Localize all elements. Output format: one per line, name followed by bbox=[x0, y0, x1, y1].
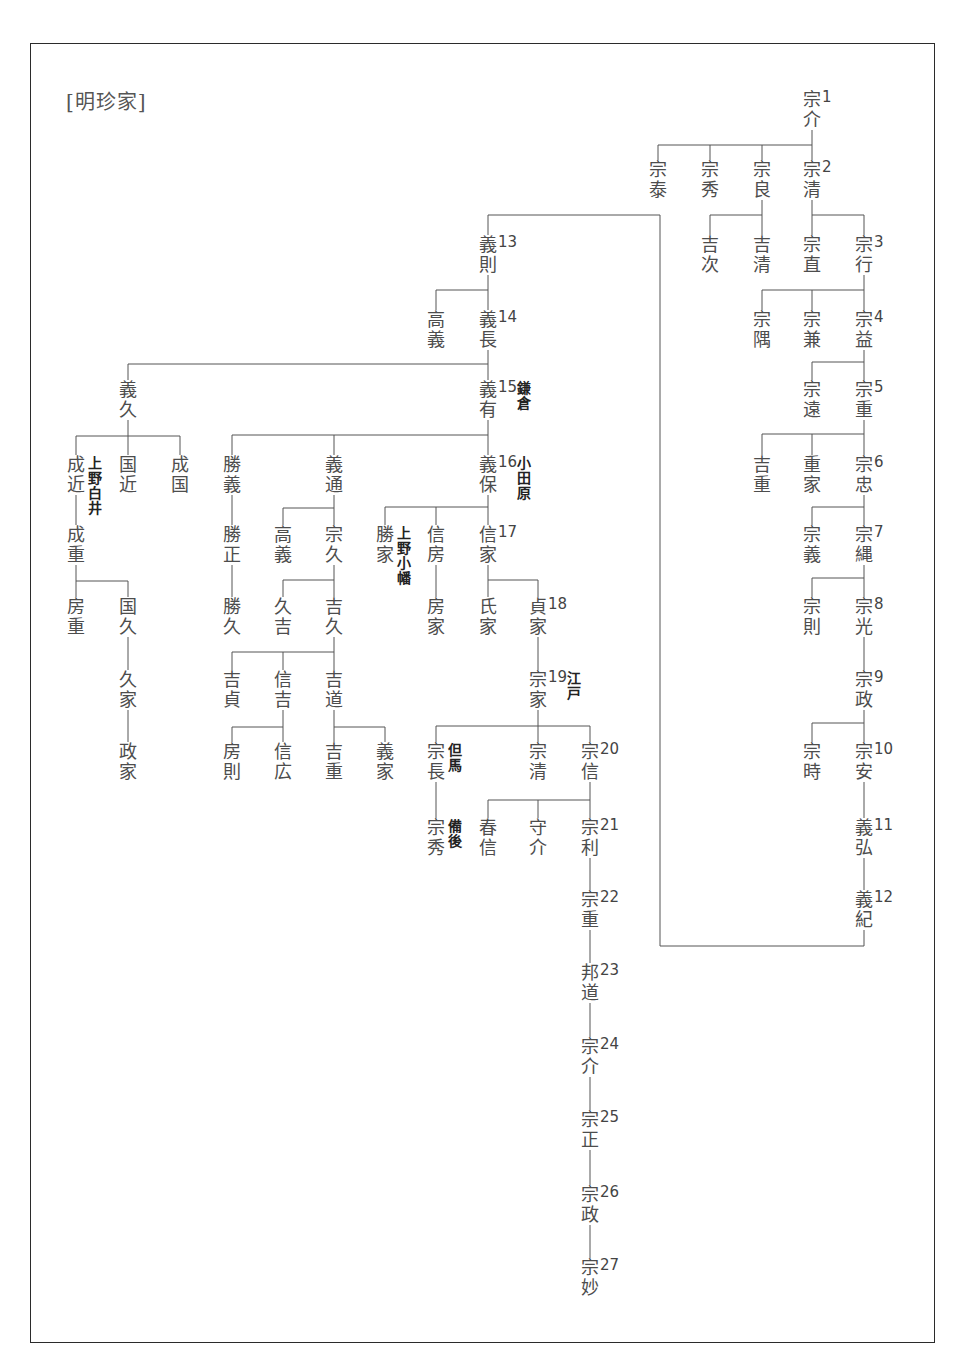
person-node: 吉清 bbox=[752, 235, 772, 275]
person-node: 宗良 bbox=[752, 160, 772, 200]
person-name-char: 信 bbox=[478, 838, 498, 858]
person-node: 吉久 bbox=[324, 597, 344, 637]
person-name-char: 房 bbox=[426, 597, 446, 617]
person-name-char: 兼 bbox=[802, 330, 822, 350]
person-name-char: 勝 bbox=[222, 525, 242, 545]
person-name-char: 則 bbox=[222, 762, 242, 782]
person-name-char: 義 bbox=[426, 330, 446, 350]
person-name-char: 吉 bbox=[324, 742, 344, 762]
person-node: 宗秀 bbox=[426, 818, 446, 858]
person-name-char: 宗 bbox=[700, 160, 720, 180]
person-node: 吉貞 bbox=[222, 670, 242, 710]
person-node: 春信 bbox=[478, 818, 498, 858]
person-name-char: 家 bbox=[478, 617, 498, 637]
person-name-char: 国 bbox=[118, 597, 138, 617]
person-name-char: 房 bbox=[66, 597, 86, 617]
person-name-char: 清 bbox=[528, 762, 548, 782]
person-name-char: 久 bbox=[324, 617, 344, 637]
person-name-char: 保 bbox=[478, 475, 498, 495]
person-name-char: 弘 bbox=[854, 838, 874, 858]
person-node: 宗政 bbox=[854, 670, 874, 710]
person-name-char: 介 bbox=[528, 838, 548, 858]
person-name-char: 宗 bbox=[802, 90, 822, 110]
person-name-char: 重 bbox=[802, 455, 822, 475]
place-note: 鎌倉 bbox=[516, 381, 532, 411]
person-name-char: 信 bbox=[478, 525, 498, 545]
person-name-char: 宗 bbox=[580, 742, 600, 762]
person-name-char: 信 bbox=[426, 525, 446, 545]
person-node: 宗清 bbox=[802, 160, 822, 200]
person-name-char: 宗 bbox=[802, 310, 822, 330]
person-node: 宗兼 bbox=[802, 310, 822, 350]
person-name-char: 介 bbox=[580, 1057, 600, 1077]
generation-number: 11 bbox=[874, 817, 893, 833]
person-name-char: 家 bbox=[375, 762, 395, 782]
person-name-char: 吉 bbox=[324, 670, 344, 690]
generation-number: 14 bbox=[498, 309, 517, 325]
person-name-char: 国 bbox=[170, 475, 190, 495]
person-node: 義長 bbox=[478, 310, 498, 350]
person-node: 宗遠 bbox=[802, 380, 822, 420]
person-name-char: 清 bbox=[802, 180, 822, 200]
person-name-char: 正 bbox=[222, 545, 242, 565]
place-note: 小田原 bbox=[516, 456, 532, 501]
person-name-char: 重 bbox=[324, 762, 344, 782]
person-name-char: 宗 bbox=[854, 525, 874, 545]
person-node: 房重 bbox=[66, 597, 86, 637]
person-node: 勝久 bbox=[222, 597, 242, 637]
person-name-char: 義 bbox=[478, 455, 498, 475]
place-note: 江戸 bbox=[566, 671, 582, 701]
person-name-char: 久 bbox=[273, 597, 293, 617]
person-node: 義久 bbox=[118, 380, 138, 420]
connector-lines bbox=[0, 0, 958, 1370]
person-node: 邦道 bbox=[580, 963, 600, 1003]
person-name-char: 隅 bbox=[752, 330, 772, 350]
person-node: 宗家 bbox=[528, 670, 548, 710]
person-name-char: 高 bbox=[273, 525, 293, 545]
person-node: 宗正 bbox=[580, 1110, 600, 1150]
generation-number: 7 bbox=[874, 524, 884, 540]
person-node: 宗妙 bbox=[580, 1258, 600, 1298]
person-name-char: 房 bbox=[222, 742, 242, 762]
person-node: 宗忠 bbox=[854, 455, 874, 495]
person-node: 勝正 bbox=[222, 525, 242, 565]
person-node: 宗重 bbox=[854, 380, 874, 420]
person-name-char: 吉 bbox=[324, 597, 344, 617]
person-node: 宗信 bbox=[580, 742, 600, 782]
person-name-char: 泰 bbox=[648, 180, 668, 200]
person-name-char: 勝 bbox=[222, 597, 242, 617]
person-name-char: 成 bbox=[170, 455, 190, 475]
person-node: 高義 bbox=[426, 310, 446, 350]
person-name-char: 正 bbox=[580, 1130, 600, 1150]
person-name-char: 春 bbox=[478, 818, 498, 838]
person-node: 房家 bbox=[426, 597, 446, 637]
person-name-char: 義 bbox=[222, 475, 242, 495]
person-name-char: 義 bbox=[118, 380, 138, 400]
person-name-char: 重 bbox=[854, 400, 874, 420]
person-name-char: 則 bbox=[802, 617, 822, 637]
person-name-char: 吉 bbox=[273, 617, 293, 637]
person-node: 成重 bbox=[66, 525, 86, 565]
generation-number: 2 bbox=[822, 159, 832, 175]
person-name-char: 紀 bbox=[854, 910, 874, 930]
person-node: 国久 bbox=[118, 597, 138, 637]
person-name-char: 義 bbox=[802, 545, 822, 565]
person-node: 勝家 bbox=[375, 525, 395, 565]
place-note: 上野白井 bbox=[87, 456, 103, 516]
person-name-char: 宗 bbox=[752, 160, 772, 180]
person-name-char: 妙 bbox=[580, 1278, 600, 1298]
person-node: 貞家 bbox=[528, 597, 548, 637]
person-name-char: 道 bbox=[324, 690, 344, 710]
person-name-char: 秀 bbox=[700, 180, 720, 200]
person-name-char: 宗 bbox=[528, 742, 548, 762]
person-name-char: 宗 bbox=[802, 380, 822, 400]
person-name-char: 重 bbox=[66, 617, 86, 637]
person-name-char: 宗 bbox=[854, 670, 874, 690]
person-name-char: 近 bbox=[66, 475, 86, 495]
person-name-char: 吉 bbox=[273, 690, 293, 710]
person-name-char: 義 bbox=[375, 742, 395, 762]
person-name-char: 家 bbox=[426, 617, 446, 637]
person-name-char: 家 bbox=[802, 475, 822, 495]
person-name-char: 時 bbox=[802, 762, 822, 782]
person-name-char: 宗 bbox=[580, 1258, 600, 1278]
